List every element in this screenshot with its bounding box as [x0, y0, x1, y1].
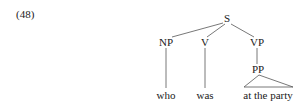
- triangle-pp: [244, 75, 293, 87]
- example-number: (48): [16, 8, 35, 21]
- node-np: NP: [159, 36, 173, 48]
- edge-s-np: [172, 23, 223, 37]
- node-pp: PP: [252, 63, 264, 75]
- syntax-tree: (48) S NP V VP PP who was at the party: [0, 0, 304, 106]
- leaf-at-the-party: at the party: [243, 89, 293, 101]
- leaf-who: who: [157, 89, 176, 101]
- edge-s-v: [207, 24, 225, 37]
- node-s: S: [224, 12, 230, 24]
- leaf-was: was: [196, 89, 213, 101]
- node-vp: VP: [250, 36, 264, 48]
- node-v: V: [201, 36, 209, 48]
